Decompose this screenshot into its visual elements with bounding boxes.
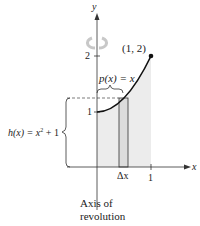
endpoint-marker (149, 54, 154, 59)
x-tick-label-1: 1 (148, 173, 153, 183)
point-label: (1, 2) (122, 43, 146, 54)
y-axis-label: y (92, 2, 96, 12)
height-label: h(x) = x2 + 1 (8, 127, 59, 138)
radius-label: p(x) = x (99, 73, 135, 84)
y-tick-label-2: 2 (85, 51, 90, 61)
height-label-suffix: + 1 (43, 127, 59, 138)
delta-x-label: Δx (117, 171, 128, 181)
radius-brace (97, 85, 123, 93)
axis-caption-line2: revolution (80, 211, 125, 222)
axis-caption-line1: Axis of (80, 198, 113, 209)
x-axis-arrow-icon (184, 165, 191, 170)
representative-rectangle (119, 98, 128, 167)
diagram-canvas (0, 0, 200, 226)
height-label-prefix: h(x) = x (8, 127, 40, 138)
y-tick-label-1: 1 (87, 107, 92, 117)
height-brace (62, 98, 70, 167)
y-axis-arrow-icon (95, 13, 100, 20)
x-axis-label: x (192, 162, 196, 172)
